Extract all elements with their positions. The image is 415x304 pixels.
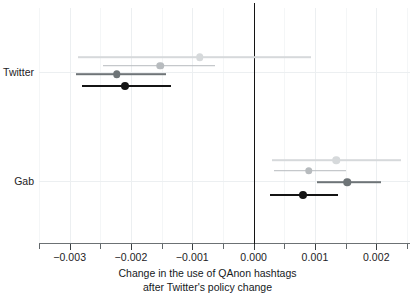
x-axis-tick — [192, 244, 193, 250]
x-axis-tick — [254, 244, 255, 250]
gridline-vertical — [315, 8, 316, 243]
estimate-point-marker — [344, 178, 352, 186]
x-axis-tick-label: −0.001 — [176, 251, 209, 263]
estimate-point-marker — [305, 167, 313, 175]
estimate-point-marker — [113, 70, 121, 78]
x-axis-tick-label: 0.000 — [240, 251, 267, 263]
gridline-vertical-minor — [346, 8, 347, 243]
gridline-vertical-minor — [223, 8, 224, 243]
x-axis-tick-label: −0.002 — [114, 251, 147, 263]
x-axis-tick-label: 0.002 — [363, 251, 390, 263]
x-axis-minor-tick — [407, 244, 408, 249]
estimate-point-marker — [157, 62, 165, 70]
x-axis-spine — [39, 243, 410, 244]
x-axis-tick — [131, 244, 132, 250]
estimate-point-marker — [121, 82, 129, 90]
x-axis-minor-tick — [223, 244, 224, 249]
x-axis-tick — [315, 244, 316, 250]
estimate-point-marker — [333, 156, 341, 164]
x-axis-tick — [70, 244, 71, 250]
x-axis-tick-label: 0.001 — [302, 251, 329, 263]
x-axis-title-line-1: Change in the use of QAnon hashtags — [0, 267, 415, 280]
x-axis-minor-tick — [346, 244, 347, 249]
gridline-vertical-minor — [162, 8, 163, 243]
zero-reference-line — [254, 3, 256, 245]
y-axis-category-label-twitter: Twitter — [0, 66, 34, 78]
gridline-vertical-minor — [284, 8, 285, 243]
x-axis-minor-tick — [100, 244, 101, 249]
confidence-interval-bar — [76, 73, 166, 75]
x-axis-minor-tick — [284, 244, 285, 249]
x-axis-minor-tick — [39, 244, 40, 249]
x-axis-minor-tick — [162, 244, 163, 249]
gridline-vertical — [131, 8, 132, 243]
gridline-vertical-minor — [407, 8, 408, 243]
estimate-point-marker — [299, 191, 307, 199]
x-axis-tick — [376, 244, 377, 250]
confidence-interval-bar — [78, 56, 312, 58]
gridline-vertical — [376, 8, 377, 243]
gridline-vertical — [192, 8, 193, 243]
x-axis-tick-label: −0.003 — [53, 251, 86, 263]
plot-area — [39, 8, 410, 243]
y-axis-category-label-gab: Gab — [0, 175, 34, 187]
gridline-vertical — [70, 8, 71, 243]
estimate-point-marker — [196, 53, 204, 61]
coefficient-plot-figure: −0.003−0.002−0.0010.0000.0010.002 Twitte… — [0, 0, 415, 304]
x-axis-title-line-2: after Twitter's policy change — [0, 281, 415, 294]
gridline-vertical-minor — [39, 8, 40, 243]
gridline-vertical-minor — [100, 8, 101, 243]
